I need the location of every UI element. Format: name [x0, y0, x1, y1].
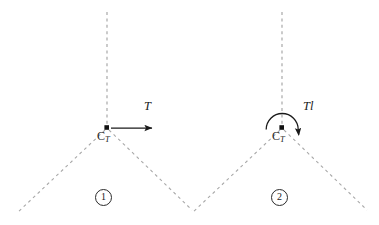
panel-2-number-circle: 2: [271, 189, 288, 206]
panel-2-number-badge: 2: [271, 189, 288, 206]
panel-1-number-circle: 1: [95, 189, 112, 206]
panel-1-left-leg-dashed: [17, 130, 105, 213]
panel-2-vertex-label-main: C: [272, 129, 280, 143]
diagram-canvas: T CT 1 Tl CT 2: [0, 0, 379, 225]
panel-1-vertex-label-main: C: [97, 129, 105, 143]
panel-2-vertex-label-subscript: T: [280, 134, 285, 144]
panel-2-right-leg-dashed: [284, 130, 367, 210]
panel-1-right-leg-dashed: [109, 130, 192, 210]
panel-2-geometry: [192, 12, 367, 213]
panel-2-load-label: Tl: [303, 100, 313, 113]
panel-2-vertex-label: CT: [272, 130, 285, 144]
diagram-vector-layer: [0, 0, 379, 225]
panel-1-vertex-label: CT: [97, 130, 110, 144]
panel-1-vertex-label-subscript: T: [105, 134, 110, 144]
panel-1-load-label: T: [144, 100, 151, 113]
panel-1-number-badge: 1: [95, 189, 112, 206]
panel-1-geometry: [17, 12, 192, 213]
panel-2-left-leg-dashed: [192, 130, 280, 213]
